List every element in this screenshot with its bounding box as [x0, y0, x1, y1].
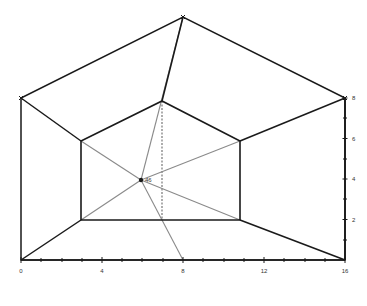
vertex-connectors	[21, 17, 345, 260]
y-axis-tick-label: 2	[352, 217, 356, 223]
y-axis-tick-label: 4	[352, 176, 356, 182]
y-axis: 2468	[343, 95, 357, 260]
x-axis-tick-label: 12	[261, 268, 268, 274]
connector-line	[240, 98, 345, 141]
connector-line	[21, 220, 81, 260]
x-axis: 0481216	[19, 257, 349, 274]
diagram-canvas: 0481216 2468 46	[0, 0, 367, 306]
center-point	[139, 178, 143, 182]
outer-pentagon	[21, 17, 345, 260]
connector-line	[21, 98, 81, 141]
guide-lines	[81, 17, 240, 260]
inner-pentagon	[81, 101, 240, 220]
guide-line	[81, 141, 141, 180]
guide-line	[141, 180, 240, 220]
connector-line	[240, 220, 345, 260]
guide-line	[81, 180, 141, 220]
center-point-label: 46	[145, 177, 152, 183]
x-axis-tick-label: 8	[181, 268, 185, 274]
guide-line	[141, 141, 240, 180]
x-axis-tick-label: 4	[100, 268, 104, 274]
y-axis-tick-label: 6	[352, 136, 356, 142]
y-axis-tick-label: 8	[352, 95, 356, 101]
x-axis-tick-label: 0	[19, 268, 23, 274]
x-axis-tick-label: 16	[342, 268, 349, 274]
connector-line	[162, 17, 183, 101]
vertex-markers	[19, 15, 347, 100]
